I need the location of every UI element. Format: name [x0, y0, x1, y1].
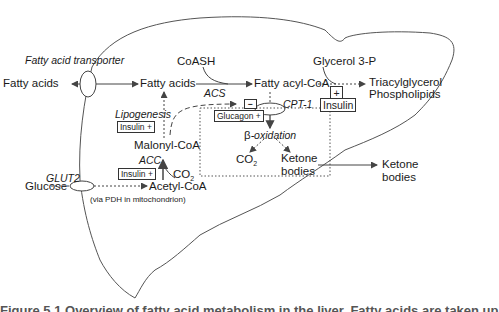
phospholipids-label: Phospholipids — [369, 88, 441, 101]
fatty-acyl-coa-label: Fatty acyl-CoA — [254, 77, 329, 90]
pdh-note-label: (via PDH in mitochondrion) — [90, 193, 186, 206]
coash-label: CoASH — [177, 55, 215, 68]
glucose-label: Glucose — [25, 180, 67, 193]
fatty-acid-transporter — [80, 71, 96, 97]
cpt1-label: CPT-1 — [283, 98, 312, 111]
insulin-tag-box: Insulin — [320, 98, 356, 112]
insulin-acc-box: Insulin + — [118, 168, 156, 180]
fatty-acids-inside-label: Fatty acids — [140, 77, 196, 90]
fatty-acid-transporter-label: Fatty acid transporter — [25, 55, 124, 66]
co2-beta-label: CO2 — [236, 153, 257, 170]
acc-label: ACC — [139, 154, 161, 167]
malonyl-inhibition-box: − — [244, 99, 257, 109]
acetyl-coa-label: Acetyl-CoA — [149, 180, 207, 193]
acs-label: ACS — [204, 87, 226, 100]
fatty-acids-outside-label: Fatty acids — [3, 77, 59, 90]
beta-oxidation-label: β-oxidation — [244, 129, 296, 142]
malonyl-coa-label: Malonyl-CoA — [134, 139, 200, 152]
ketone-bodies-inside-label: Ketonebodies — [281, 152, 317, 178]
lipogenesis-label: Lipogenesis — [115, 108, 171, 121]
glycerol-3p-label: Glycerol 3-P — [313, 55, 376, 68]
glucagon-regulator-box: Glucagon + — [214, 110, 264, 122]
insulin-lipogenesis-box: Insulin + — [117, 121, 155, 133]
ketone-bodies-outside-label: Ketonebodies — [382, 158, 418, 184]
figure-caption: Figure 5.1 Overview of fatty acid metabo… — [0, 303, 499, 312]
